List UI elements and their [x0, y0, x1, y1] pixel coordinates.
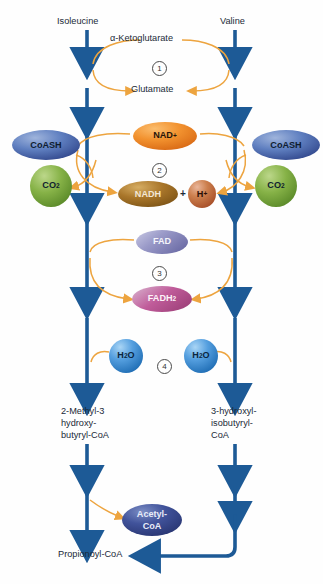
curve-fad-in-left	[90, 240, 134, 253]
h2o-left-o: O	[128, 351, 135, 361]
curve-fad-in-right	[190, 240, 232, 253]
intermediate-left-line1: 2-Methyl-3	[61, 406, 104, 417]
co2-right-sub: 2	[281, 183, 285, 190]
co2-right-label: CO2	[255, 178, 297, 194]
step-number-3: 3	[152, 266, 167, 281]
nadh-label: NADH	[120, 187, 176, 202]
curve-to-acetyl-coa	[90, 500, 120, 517]
h2o-right-o: O	[203, 351, 210, 361]
coash-left-label: CoASH	[12, 137, 80, 154]
h2o-left-h: H	[117, 351, 124, 361]
curve-fadh2-out-right	[196, 258, 232, 299]
co2-left-sub: 2	[56, 183, 60, 190]
intermediate-right-line3: CoA	[211, 430, 229, 441]
co2-left-label: CO2	[30, 178, 72, 194]
fad-label: FAD	[138, 234, 186, 250]
pathway-diagram: Isoleucine Valine α-Ketoglutarate Glutam…	[0, 0, 323, 584]
nad-label: NAD+	[137, 128, 193, 144]
coash-right-label: CoASH	[252, 137, 320, 154]
curve-nad-in-right	[200, 134, 244, 147]
h2o-right-h: H	[192, 351, 199, 361]
plus-sign: +	[180, 188, 186, 200]
step-number-4: 4	[157, 359, 172, 374]
nad-text: NAD	[153, 131, 173, 141]
curve-nadh-out-left	[77, 150, 112, 192]
fadh2-label: FADH2	[134, 291, 190, 307]
label-propionoyl-coa: Propionoyl-CoA	[58, 549, 122, 560]
proton-label: H+	[190, 187, 214, 202]
proton-sup: +	[203, 191, 207, 198]
h2o-left-label: H2O	[108, 348, 144, 364]
step-number-1: 1	[152, 61, 167, 76]
step-number-2: 2	[152, 163, 167, 178]
label-valine: Valine	[220, 16, 245, 27]
curve-valine-to-glutamate	[192, 70, 229, 91]
co2-right-text: CO	[267, 181, 281, 191]
label-isoleucine: Isoleucine	[57, 16, 98, 27]
acetyl-coa-line1: Acetyl-	[124, 509, 180, 520]
fadh2-text: FADH	[148, 294, 173, 304]
intermediate-right-line1: 3-hydroxyl-	[211, 406, 256, 417]
intermediate-left-line3: butyryl-CoA	[61, 430, 109, 441]
curve-fadh2-out-left	[90, 258, 128, 299]
label-glutamate: Glutamate	[131, 84, 173, 95]
intermediate-left-line2: hydroxy-	[61, 418, 96, 429]
fadh2-sub: 2	[173, 296, 177, 303]
label-alpha-ketoglutarate: α-Ketoglutarate	[110, 33, 173, 44]
proton-text: H	[197, 190, 204, 200]
intermediate-right-line2: isobutyryl-	[211, 418, 253, 429]
nad-sup: +	[173, 133, 177, 140]
co2-left-text: CO	[42, 181, 56, 191]
acetyl-coa-line2: CoA	[124, 521, 180, 532]
curve-valine-to-akg	[182, 40, 229, 64]
curve-iso-to-glutamate	[93, 70, 130, 91]
h2o-right-label: H2O	[183, 348, 219, 364]
curve-h2o-in-left	[91, 351, 109, 362]
